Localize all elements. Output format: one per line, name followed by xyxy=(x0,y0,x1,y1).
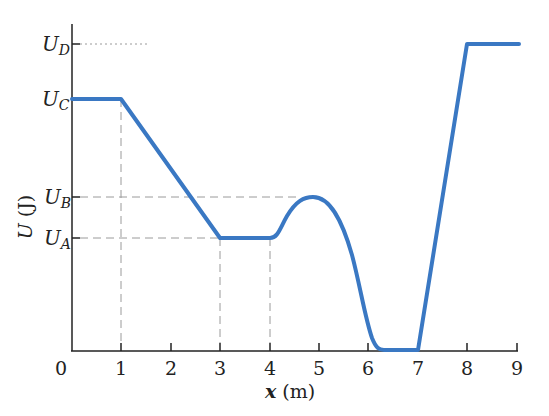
x-tick-label: 7 xyxy=(412,357,424,379)
x-tick-label: 4 xyxy=(264,357,276,379)
potential-energy-chart: UD UC UB UA U (J) 0 1 2 3 4 5 6 7 8 9 x … xyxy=(0,0,549,416)
x-tick-label: 1 xyxy=(115,357,127,379)
label-ua: UA xyxy=(44,226,71,252)
x-tick-labels: 0 1 2 3 4 5 6 7 8 9 xyxy=(55,357,523,379)
axes xyxy=(71,24,518,351)
x-tick-label: 5 xyxy=(313,357,325,379)
x-tick-label: 6 xyxy=(362,357,374,379)
x-tick-label: 0 xyxy=(55,357,67,379)
x-tick-label: 2 xyxy=(165,357,177,379)
y-axis-title: U (J) xyxy=(14,195,36,240)
label-ud: UD xyxy=(42,32,70,58)
x-tick-label: 9 xyxy=(511,357,523,379)
x-axis-title: x (m) xyxy=(264,380,315,402)
label-uc: UC xyxy=(42,87,70,113)
x-tick-label: 8 xyxy=(461,357,473,379)
x-tick-label: 3 xyxy=(214,357,226,379)
label-ub: UB xyxy=(44,185,71,211)
y-level-labels: UD UC UB UA xyxy=(42,32,71,252)
